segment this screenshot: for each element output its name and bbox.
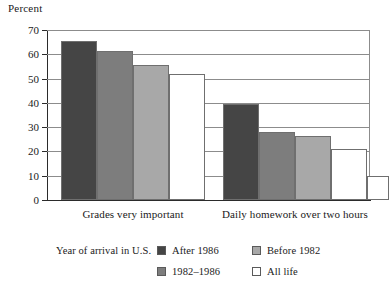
y-tick-mark — [42, 30, 47, 31]
legend-swatch-1982-1986 — [157, 267, 166, 276]
y-tick-mark — [42, 151, 47, 152]
x-category-label: Daily homework over two hours — [222, 208, 368, 220]
y-tick-label: 10 — [28, 170, 39, 182]
legend-label-all-life: All life — [267, 266, 298, 277]
legend-title: Year of arrival in U.S. — [56, 245, 151, 256]
y-tick-mark — [42, 176, 47, 177]
x-category-label: Grades very important — [83, 208, 184, 220]
bar — [331, 149, 367, 200]
legend-label-after-1986: After 1986 — [172, 245, 219, 256]
y-tick-label: 20 — [28, 145, 39, 157]
legend-row-2: 1982–1986 All life — [0, 261, 377, 281]
legend-label-before-1982: Before 1982 — [267, 245, 320, 256]
bar — [133, 65, 169, 200]
legend-swatch-after-1986 — [157, 246, 166, 255]
bar — [223, 104, 259, 200]
bar — [61, 41, 97, 200]
y-tick-mark — [42, 103, 47, 104]
y-tick-label: 60 — [28, 48, 39, 60]
y-tick-mark — [42, 127, 47, 128]
y-tick-label: 40 — [28, 97, 39, 109]
legend-row-1: Year of arrival in U.S. After 1986 Befor… — [0, 240, 377, 260]
bar — [259, 132, 295, 200]
plot-area — [47, 30, 370, 200]
y-tick-mark — [42, 54, 47, 55]
legend-item-before-1982[interactable]: Before 1982 — [252, 245, 320, 256]
y-tick-label: 50 — [28, 73, 39, 85]
y-tick-mark — [42, 79, 47, 80]
y-tick-mark — [42, 200, 47, 201]
x-axis-line — [47, 200, 371, 201]
legend-item-all-life[interactable]: All life — [252, 266, 298, 277]
bar — [367, 176, 389, 200]
bar — [97, 51, 133, 200]
legend-swatch-before-1982 — [252, 246, 261, 255]
legend-swatch-all-life — [252, 267, 261, 276]
plot-border-top — [47, 30, 370, 31]
legend-label-1982-1986: 1982–1986 — [172, 266, 220, 277]
bar — [295, 136, 331, 200]
legend-item-1982-1986[interactable]: 1982–1986 — [157, 266, 220, 277]
y-tick-label: 70 — [28, 24, 39, 36]
y-axis-title: Percent — [8, 2, 42, 14]
bar — [169, 74, 205, 200]
y-tick-label: 30 — [28, 121, 39, 133]
legend-item-after-1986[interactable]: After 1986 — [157, 245, 219, 256]
plot-border-right — [369, 30, 370, 200]
y-tick-label: 0 — [34, 194, 40, 206]
